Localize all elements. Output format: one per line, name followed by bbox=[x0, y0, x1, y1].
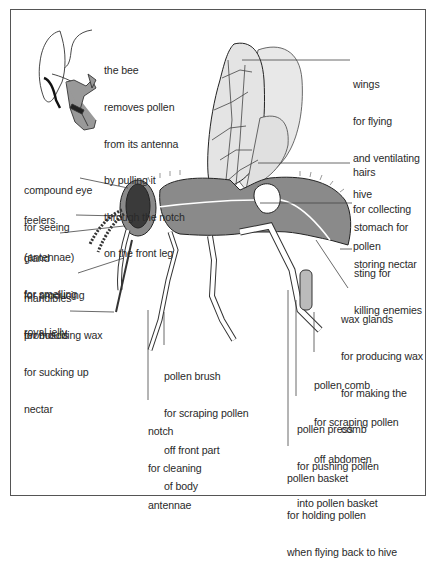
label-pollen-basket: pollen basket for holding pollen when fl… bbox=[287, 448, 397, 562]
label-line: hairs bbox=[353, 166, 411, 178]
caption-line: the bee bbox=[104, 64, 185, 76]
label-line: for sucking up bbox=[24, 366, 89, 378]
label-line: sting for bbox=[354, 267, 422, 279]
label-line: notch bbox=[148, 425, 202, 437]
label-line: pollen press bbox=[297, 423, 379, 435]
label-line: nectar bbox=[24, 403, 89, 415]
label-notch: notch for cleaning antennae bbox=[148, 401, 202, 523]
label-line: stomach for bbox=[354, 221, 417, 233]
label-line: for flying bbox=[353, 115, 420, 127]
label-line: wings bbox=[353, 78, 420, 90]
label-line: pollen brush bbox=[164, 370, 249, 382]
inset-caption: the bee removes pollen from its antenna … bbox=[104, 40, 185, 272]
label-proboscis: proboscis for sucking up nectar bbox=[24, 305, 89, 427]
label-line: antennae bbox=[148, 499, 202, 511]
label-line: gland bbox=[24, 252, 85, 264]
pollen-basket-illustration bbox=[300, 270, 312, 310]
label-line: for holding pollen bbox=[287, 509, 397, 521]
label-line: for cleaning bbox=[148, 462, 202, 474]
caption-line: by pulling it bbox=[104, 174, 185, 186]
label-line: wax glands bbox=[341, 313, 423, 325]
label-line: feelers bbox=[24, 214, 77, 226]
caption-line: removes pollen bbox=[104, 101, 185, 113]
caption-line: on the front leg bbox=[104, 247, 185, 259]
label-line: when flying back to hive bbox=[287, 546, 397, 558]
label-line: mandibles bbox=[24, 292, 102, 304]
label-line: pollen comb bbox=[314, 379, 399, 391]
wings-illustration bbox=[208, 43, 303, 190]
caption-line: from its antenna bbox=[104, 138, 185, 150]
label-line: pollen basket bbox=[287, 472, 397, 484]
label-line: proboscis bbox=[24, 329, 89, 341]
caption-line: through the notch bbox=[104, 211, 185, 223]
inset-antenna-cleaning-illustration bbox=[39, 30, 96, 130]
